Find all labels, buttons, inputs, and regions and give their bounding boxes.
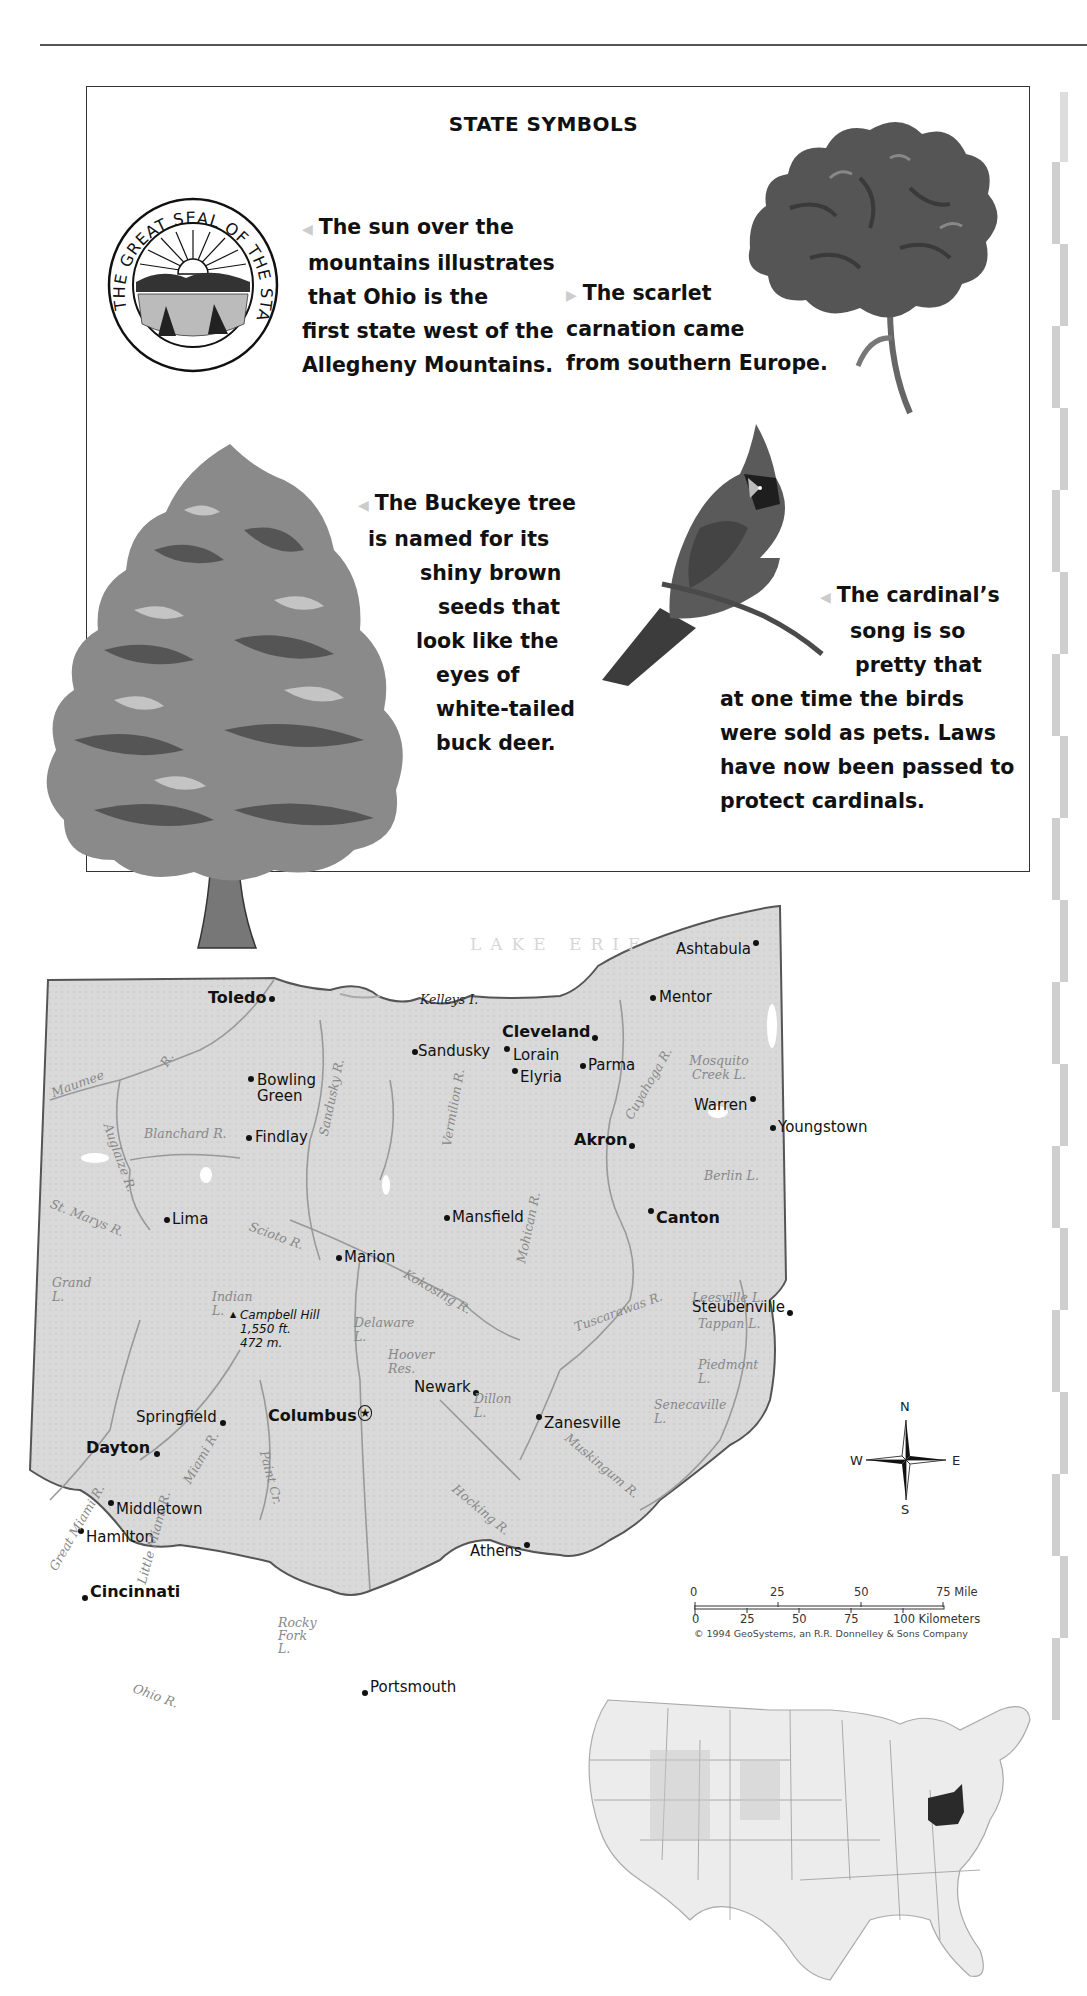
scale-km-100: 100 Kilometers xyxy=(893,1612,980,1626)
city-dot-icon xyxy=(787,1310,793,1316)
scale-bar xyxy=(694,1599,946,1611)
label-piedmont-lake: Piedmont L. xyxy=(698,1358,758,1386)
city-dot-icon xyxy=(108,1500,114,1506)
peak-triangle-icon: ▲ xyxy=(230,1310,236,1319)
label-mosquito-creek-lake: Mosquito Creek L. xyxy=(684,1054,754,1082)
compass-west: W xyxy=(850,1453,863,1468)
scale-km-0: 0 xyxy=(692,1612,699,1626)
city-dot-icon xyxy=(269,996,275,1002)
caption-line: song is so xyxy=(720,614,1014,648)
caption-line: ◀The cardinal’s xyxy=(720,578,1014,614)
scale-mile-25: 25 xyxy=(770,1585,785,1599)
city-dot-icon xyxy=(504,1046,510,1052)
caption-line: Allegheny Mountains. xyxy=(302,348,555,382)
us-locator-map xyxy=(580,1680,1040,1990)
caption-line: have now been passed to xyxy=(720,750,1014,784)
city-newark[interactable]: Newark xyxy=(414,1378,479,1396)
city-toledo[interactable]: Toledo xyxy=(208,988,275,1007)
city-sandusky[interactable]: Sandusky xyxy=(412,1042,490,1060)
city-dot-icon xyxy=(220,1420,226,1426)
city-parma[interactable]: Parma xyxy=(580,1056,635,1074)
seal-caption: ◀The sun over the mountains illustrates … xyxy=(302,210,555,382)
city-cleveland[interactable]: Cleveland xyxy=(502,1022,598,1041)
city-canton[interactable]: Canton xyxy=(648,1208,720,1227)
city-athens[interactable]: Athens xyxy=(470,1542,530,1560)
cardinal-caption: ◀The cardinal’s song is so pretty that a… xyxy=(720,578,1014,818)
city-dot-icon xyxy=(246,1135,252,1141)
caption-line: from southern Europe. xyxy=(566,346,828,380)
city-ashtabula[interactable]: Ashtabula xyxy=(676,940,759,958)
page-edge-strip xyxy=(1052,92,1072,1732)
city-springfield[interactable]: Springfield xyxy=(136,1408,226,1426)
city-dot-icon xyxy=(248,1076,254,1082)
label-ohio-river: Ohio R. xyxy=(131,1680,180,1710)
label-delaware-lake: Delaware L. xyxy=(354,1316,414,1344)
city-dot-icon xyxy=(536,1414,542,1420)
caption-line: shiny brown xyxy=(368,556,576,590)
city-marion[interactable]: Marion xyxy=(336,1248,395,1266)
city-dot-icon xyxy=(82,1595,88,1601)
scale-km-75: 75 xyxy=(844,1612,859,1626)
label-hoover-reservoir: Hoover Res. xyxy=(388,1348,438,1376)
label-berlin-lake: Berlin L. xyxy=(704,1168,759,1183)
city-mansfield[interactable]: Mansfield xyxy=(444,1208,524,1226)
caption-line: ▶The scarlet xyxy=(566,276,828,312)
city-warren[interactable]: Warren xyxy=(694,1096,756,1114)
scale-km-25: 25 xyxy=(740,1612,755,1626)
label-kelleys-island: Kelleys I. xyxy=(420,992,478,1007)
compass-rose-icon xyxy=(866,1420,946,1500)
caption-line: pretty that xyxy=(720,648,1014,682)
city-lima[interactable]: Lima xyxy=(164,1210,208,1228)
label-rocky-fork-lake: Rocky Fork L. xyxy=(278,1616,318,1655)
city-dot-icon xyxy=(750,1096,756,1102)
city-dot-icon xyxy=(648,1208,654,1214)
city-dot-icon xyxy=(580,1063,586,1069)
city-dot-icon xyxy=(592,1035,598,1041)
pointer-right-icon: ▶ xyxy=(566,287,577,303)
caption-line: buck deer. xyxy=(368,726,576,760)
pointer-left-icon: ◀ xyxy=(820,589,831,605)
city-dot-icon xyxy=(164,1217,170,1223)
city-portsmouth[interactable]: Portsmouth xyxy=(362,1678,456,1696)
caption-line: were sold as pets. Laws xyxy=(720,716,1014,750)
city-lorain[interactable]: Lorain xyxy=(504,1046,559,1064)
city-dot-icon xyxy=(444,1215,450,1221)
label-tappan-lake: Tappan L. xyxy=(698,1316,761,1331)
scale-km-50: 50 xyxy=(792,1612,807,1626)
city-dot-icon xyxy=(362,1690,368,1696)
pointer-left-icon: ◀ xyxy=(358,497,369,513)
caption-line: is named for its xyxy=(368,522,576,556)
capital-star-icon: ★ xyxy=(358,1405,373,1421)
compass-north: N xyxy=(900,1399,910,1414)
label-senecaville-lake: Senecaville L. xyxy=(654,1398,734,1426)
city-columbus[interactable]: Columbus★ xyxy=(268,1406,372,1425)
label-dillon-lake: Dillon L. xyxy=(474,1392,514,1420)
city-findlay[interactable]: Findlay xyxy=(246,1128,308,1146)
top-rule xyxy=(40,44,1087,46)
ohio-relief-map xyxy=(0,900,800,1660)
city-cincinnati[interactable]: Cincinnati xyxy=(82,1582,180,1601)
label-blanchard-river: Blanchard R. xyxy=(144,1126,227,1141)
lake-erie-label: LAKE ERIE xyxy=(470,934,649,954)
scale-mile-50: 50 xyxy=(854,1585,869,1599)
city-akron[interactable]: Akron xyxy=(574,1130,635,1149)
city-bowling-green[interactable]: Bowling Green xyxy=(248,1072,317,1104)
label-leesville-lake: Leesville L. xyxy=(692,1290,764,1305)
city-hamilton[interactable]: Hamilton xyxy=(78,1528,154,1546)
city-dot-icon xyxy=(512,1068,518,1074)
flower-caption: ▶The scarlet carnation came from souther… xyxy=(566,276,828,380)
city-dot-icon xyxy=(753,940,759,946)
city-youngstown[interactable]: Youngstown xyxy=(770,1118,868,1136)
caption-line: mountains illustrates xyxy=(302,246,555,280)
ohio-seal-icon: THE GREAT SEAL OF THE STATE OF OHIO xyxy=(106,196,280,374)
scale-mile-0: 0 xyxy=(690,1585,697,1599)
city-zanesville[interactable]: Zanesville xyxy=(536,1414,621,1432)
pointer-left-icon: ◀ xyxy=(302,221,313,237)
caption-line: white-tailed xyxy=(368,692,576,726)
city-mentor[interactable]: Mentor xyxy=(650,988,712,1006)
campbell-hill-label: ▲ Campbell Hill 1,550 ft. 472 m. xyxy=(230,1308,320,1350)
city-dayton[interactable]: Dayton xyxy=(86,1438,160,1457)
city-elyria[interactable]: Elyria xyxy=(512,1068,562,1086)
caption-line: protect cardinals. xyxy=(720,784,1014,818)
caption-line: carnation came xyxy=(566,312,828,346)
